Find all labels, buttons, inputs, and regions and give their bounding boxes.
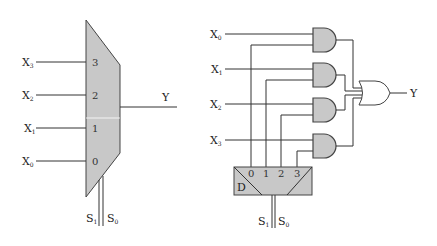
mux-body	[86, 20, 120, 197]
mux-select-label-s1: S1	[86, 212, 97, 225]
mux-port-2: 2	[92, 90, 98, 101]
or-gate	[359, 81, 390, 105]
decoder-output-0: 0	[248, 168, 254, 179]
decoder-wire-0	[251, 45, 313, 167]
mux-input-label-x0: X0	[22, 155, 34, 168]
mux-block: X3 X2 X1 X0 3 2 1 0 Y S1 S0	[22, 20, 177, 226]
and-gate-1	[313, 63, 336, 87]
circuit-output-label: Y	[409, 87, 418, 100]
decoder-output-2: 2	[278, 168, 284, 179]
decoder-select-label-s0: S0	[278, 215, 290, 228]
circuit-input-label-x0: X0	[210, 28, 222, 41]
and-gate-0	[313, 28, 336, 52]
mux-port-0: 0	[92, 156, 98, 167]
decoder-wire-1	[266, 80, 313, 167]
circuit-input-label-x3: X3	[210, 134, 222, 147]
gate-level-circuit: X0 X1 X2 X3 Y D 0	[210, 28, 418, 228]
mux-port-3: 3	[92, 57, 98, 68]
decoder-block: D 0 1 2 3	[234, 167, 312, 195]
circuit-input-label-x1: X1	[211, 63, 223, 76]
diagram-canvas: X3 X2 X1 X0 3 2 1 0 Y S1 S0 X0 X1 X2 X3	[0, 0, 437, 246]
mux-input-label-x3: X3	[22, 56, 34, 69]
mux-input-label-x2: X2	[22, 89, 34, 102]
mux-input-label-x1: X1	[24, 122, 36, 135]
decoder-output-3: 3	[294, 168, 300, 179]
decoder-wire-3	[297, 151, 313, 167]
circuit-input-label-x2: X2	[210, 98, 222, 111]
mux-output-label: Y	[161, 91, 170, 104]
decoder-select-label-s1: S1	[258, 215, 269, 228]
and-gate-2	[313, 98, 336, 122]
and-gate-3	[313, 134, 336, 158]
decoder-label: D	[237, 181, 246, 194]
decoder-output-1: 1	[263, 168, 269, 179]
mux-port-1: 1	[92, 123, 98, 134]
mux-select-label-s0: S0	[107, 212, 119, 225]
